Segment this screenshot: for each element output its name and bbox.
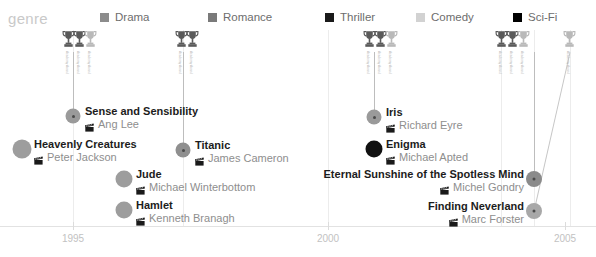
legend-item-label: Comedy	[431, 11, 474, 23]
connector-line	[374, 52, 375, 117]
film-title: Finding Neverland	[0, 200, 524, 213]
film-director: Marc Forster	[462, 213, 524, 226]
film-dot[interactable]	[366, 141, 383, 158]
film-dot-core	[182, 149, 185, 152]
award-marker[interactable]: Academy Award	[186, 30, 199, 49]
award-label: Academy Award	[388, 51, 392, 74]
plot-area: 199520002005 Academy AwardAcademy AwardA…	[0, 30, 596, 257]
film-title: Eternal Sunshine of the Spotless Mind	[0, 168, 524, 181]
film-title: Titanic	[195, 139, 289, 152]
film-dot[interactable]	[66, 109, 81, 124]
axis-tick-label: 2005	[554, 233, 576, 244]
clapperboard-icon	[440, 183, 449, 192]
clapperboard-icon	[85, 120, 94, 129]
award-label: Academy Award	[377, 51, 381, 74]
axis-tick	[565, 222, 566, 230]
award-marker[interactable]: Academy Award	[517, 30, 530, 49]
film-director-row: James Cameron	[195, 152, 289, 165]
film-entry[interactable]: Eternal Sunshine of the Spotless MindMic…	[0, 168, 524, 194]
film-entry[interactable]: IrisRichard Eyre	[386, 106, 463, 132]
trophy-icon	[563, 30, 576, 49]
award-marker[interactable]: Academy Award	[385, 30, 398, 49]
film-entry[interactable]: TitanicJames Cameron	[195, 139, 289, 165]
film-director: Michel Gondry	[453, 181, 524, 194]
axis-tick-label: 1995	[62, 233, 84, 244]
legend-swatch-icon	[416, 13, 425, 22]
connector-line-diagonal	[534, 52, 571, 211]
connector-line	[183, 52, 184, 150]
film-title: Heavenly Creatures	[34, 138, 137, 151]
award-label: Academy Award	[76, 51, 80, 74]
trophy-icon	[385, 30, 398, 49]
film-dot-core	[533, 210, 536, 213]
legend: genre DramaRomanceThrillerComedySci-Fi	[0, 8, 596, 30]
film-entry[interactable]: Finding NeverlandMarc Forster	[0, 200, 524, 226]
award-label: Academy Award	[498, 51, 502, 74]
trophy-icon	[517, 30, 530, 49]
legend-item-romance[interactable]: Romance	[208, 11, 272, 23]
film-dot-core	[72, 115, 75, 118]
clapperboard-icon	[386, 121, 395, 130]
film-director: James Cameron	[208, 152, 289, 165]
x-axis	[0, 226, 596, 227]
legend-swatch-icon	[325, 13, 334, 22]
film-dot[interactable]	[176, 143, 191, 158]
award-label: Academy Award	[65, 51, 69, 74]
clapperboard-icon	[34, 153, 43, 162]
connector-line	[534, 52, 535, 179]
film-director-row: Michel Gondry	[0, 181, 524, 194]
film-entry[interactable]: Heavenly CreaturesPeter Jackson	[34, 138, 137, 164]
award-label: Academy Award	[87, 51, 91, 74]
legend-item-comedy[interactable]: Comedy	[416, 11, 474, 23]
award-marker[interactable]: Academy Award	[563, 30, 576, 49]
trophy-icon	[186, 30, 199, 49]
film-director-row: Peter Jackson	[34, 151, 137, 164]
film-director: Ang Lee	[98, 118, 139, 131]
film-director: Michael Apted	[399, 151, 468, 164]
film-director-row: Marc Forster	[0, 213, 524, 226]
legend-item-sci-fi[interactable]: Sci-Fi	[513, 11, 557, 23]
award-label: Academy Award	[178, 51, 182, 74]
film-title: Sense and Sensibility	[85, 105, 198, 118]
clapperboard-icon	[386, 153, 395, 162]
trophy-icon	[84, 30, 97, 49]
gridline	[570, 30, 571, 226]
legend-title: genre	[8, 10, 48, 27]
clapperboard-icon	[449, 215, 458, 224]
film-dot[interactable]	[526, 171, 542, 187]
award-label: Academy Award	[509, 51, 513, 74]
film-director-row: Richard Eyre	[386, 119, 463, 132]
film-director-row: Michael Apted	[386, 151, 468, 164]
axis-tick-label: 2000	[317, 233, 339, 244]
film-director: Richard Eyre	[399, 119, 463, 132]
connector-line	[73, 52, 74, 116]
film-entry[interactable]: Sense and SensibilityAng Lee	[85, 105, 198, 131]
film-entry[interactable]: EnigmaMichael Apted	[386, 138, 468, 164]
award-label: Academy Award	[366, 51, 370, 74]
legend-item-drama[interactable]: Drama	[100, 11, 150, 23]
film-dot[interactable]	[367, 110, 382, 125]
film-dot[interactable]	[13, 140, 32, 159]
film-dot-core	[373, 116, 376, 119]
legend-item-label: Romance	[223, 11, 272, 23]
gridline	[328, 30, 329, 226]
legend-swatch-icon	[100, 13, 109, 22]
award-label: Academy Award	[189, 51, 193, 74]
film-dot-core	[533, 178, 536, 181]
film-director-row: Ang Lee	[85, 118, 198, 131]
film-title: Iris	[386, 106, 463, 119]
chart-canvas: genre DramaRomanceThrillerComedySci-Fi 1…	[0, 0, 596, 257]
film-director: Peter Jackson	[47, 151, 117, 164]
film-dot[interactable]	[526, 203, 542, 219]
award-marker[interactable]: Academy Award	[84, 30, 97, 49]
legend-swatch-icon	[208, 13, 217, 22]
award-label: Academy Award	[566, 51, 570, 74]
legend-item-label: Thriller	[340, 11, 375, 23]
legend-item-label: Drama	[115, 11, 150, 23]
award-label: Academy Award	[520, 51, 524, 74]
legend-item-label: Sci-Fi	[528, 11, 557, 23]
legend-item-thriller[interactable]: Thriller	[325, 11, 375, 23]
clapperboard-icon	[195, 154, 204, 163]
legend-swatch-icon	[513, 13, 522, 22]
film-title: Enigma	[386, 138, 468, 151]
